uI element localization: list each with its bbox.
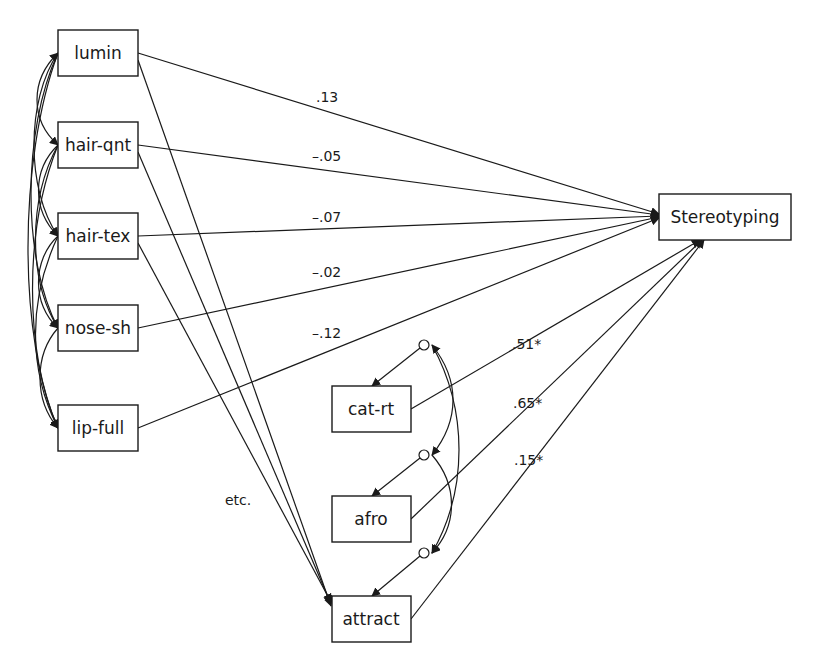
node-label: cat-rt bbox=[348, 399, 395, 419]
node-lip-full: lip-full bbox=[58, 405, 138, 451]
node-label: Stereotyping bbox=[670, 207, 779, 227]
error-terms bbox=[372, 340, 429, 596]
node-cat-rt: cat-rt bbox=[332, 386, 411, 432]
coef-hair-qnt: –.05 bbox=[312, 148, 341, 164]
node-nose-sh: nose-sh bbox=[58, 305, 138, 351]
path-hairtex-stereotyping bbox=[138, 216, 659, 236]
path-nosesh-stereotyping bbox=[138, 217, 659, 328]
node-hair-tex: hair-tex bbox=[58, 213, 138, 259]
node-label: lumin bbox=[74, 43, 122, 63]
node-afro: afro bbox=[332, 496, 411, 542]
path-attract-stereotyping bbox=[411, 240, 704, 619]
path-lumin-stereotyping bbox=[138, 53, 659, 214]
path-catrt-stereotyping bbox=[411, 240, 700, 409]
node-hair-qnt: hair-qnt bbox=[58, 122, 138, 168]
node-attract: attract bbox=[332, 596, 411, 642]
node-lumin: lumin bbox=[58, 30, 138, 76]
path-afro-stereotyping bbox=[411, 240, 702, 519]
coef-lip-full: –.12 bbox=[312, 325, 341, 341]
node-label: nose-sh bbox=[65, 318, 131, 338]
coef-nose-sh: –.02 bbox=[312, 264, 341, 280]
path-diagram: .13 –.05 –.07 –.02 –.12 .51* .65* .15* e… bbox=[0, 0, 817, 672]
node-stereotyping: Stereotyping bbox=[659, 194, 791, 240]
coef-attract: .15* bbox=[514, 452, 543, 468]
node-label: hair-qnt bbox=[65, 135, 132, 155]
error-term-catrt bbox=[419, 340, 429, 350]
node-label: afro bbox=[354, 509, 387, 529]
coef-afro: .65* bbox=[513, 395, 542, 411]
paths-to-attract bbox=[138, 60, 331, 606]
node-label: attract bbox=[342, 609, 400, 629]
coef-cat-rt: .51* bbox=[512, 336, 541, 352]
coefficient-labels: .13 –.05 –.07 –.02 –.12 .51* .65* .15* e… bbox=[225, 89, 543, 508]
node-label: lip-full bbox=[72, 418, 125, 438]
path-hairqnt-stereotyping bbox=[138, 145, 659, 215]
error-term-attract bbox=[419, 548, 429, 558]
coef-lumin: .13 bbox=[316, 89, 338, 105]
node-label: hair-tex bbox=[66, 226, 131, 246]
etc-annotation: etc. bbox=[225, 492, 251, 508]
feature-covariance-arcs bbox=[28, 53, 58, 428]
paths-to-stereotyping bbox=[138, 53, 704, 619]
error-covariance-arcs bbox=[432, 345, 459, 553]
coef-hair-tex: –.07 bbox=[312, 209, 341, 225]
error-term-afro bbox=[419, 450, 429, 460]
